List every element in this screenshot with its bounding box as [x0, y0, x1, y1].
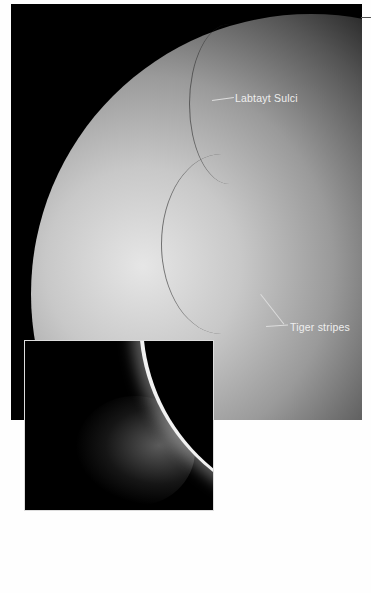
label-labtayt-sulci: Labtayt Sulci: [235, 92, 298, 104]
inset-plume-image: [24, 340, 214, 511]
surface-fracture: [161, 154, 282, 334]
label-tiger-stripes: Tiger stripes: [290, 321, 350, 333]
edge-rule: [361, 17, 371, 18]
